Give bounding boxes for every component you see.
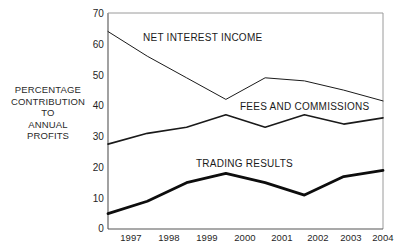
x-tick-1997: 1997 bbox=[114, 232, 148, 243]
series-annotation-trading-results: TRADING RESULTS bbox=[196, 158, 293, 169]
x-tick-2000: 2000 bbox=[228, 232, 262, 243]
x-tick-1998: 1998 bbox=[152, 232, 186, 243]
x-tick-2002: 2002 bbox=[301, 232, 335, 243]
series-annotation-net-interest-income: NET INTEREST INCOME bbox=[143, 32, 262, 43]
x-tick-1999: 1999 bbox=[190, 232, 224, 243]
x-tick-2003: 2003 bbox=[334, 232, 368, 243]
series-annotation-fees-and-commissions: FEES AND COMMISSIONS bbox=[240, 101, 369, 112]
x-tick-2004: 2004 bbox=[366, 232, 400, 243]
series-lines bbox=[108, 32, 383, 214]
series-line-trading-results bbox=[108, 170, 383, 213]
series-line-fees-and-commissions bbox=[108, 115, 383, 144]
x-tick-2001: 2001 bbox=[265, 232, 299, 243]
chart-figure: PERCENTAGE CONTRIBUTION TO ANNUAL PROFIT… bbox=[0, 0, 401, 252]
